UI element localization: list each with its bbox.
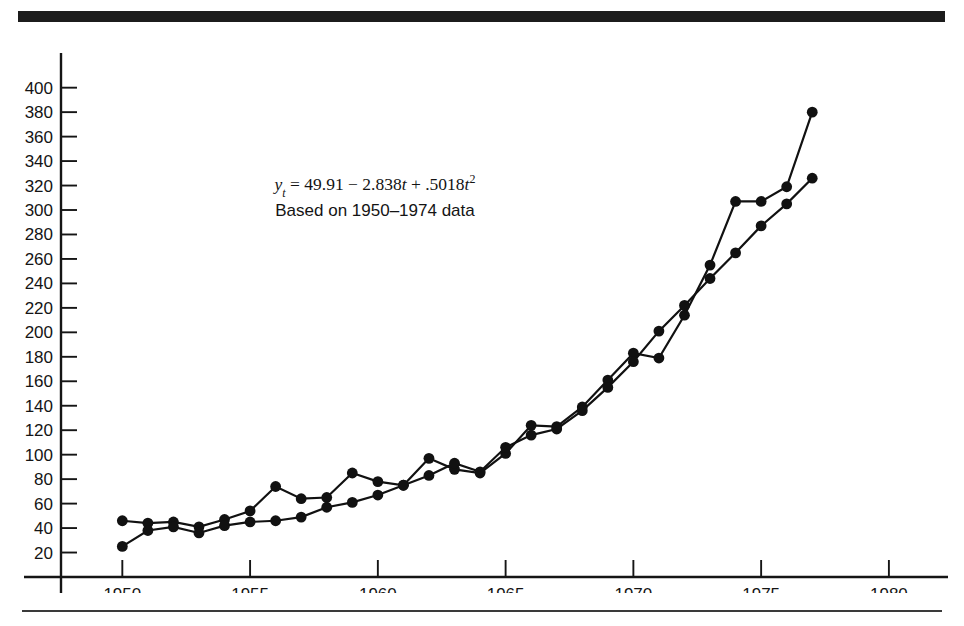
y-tick-label: 120 bbox=[25, 421, 53, 440]
y-tick-label: 380 bbox=[25, 103, 53, 122]
y-tick-label: 280 bbox=[25, 225, 53, 244]
x-axis: 1950195519601965197019751980 bbox=[24, 560, 948, 593]
data-point bbox=[347, 497, 358, 508]
line-chart: 2040608010012014016018020022024026028030… bbox=[0, 28, 964, 593]
data-point bbox=[219, 520, 230, 531]
figure-root: 2040608010012014016018020022024026028030… bbox=[0, 0, 964, 626]
y-tick-label: 300 bbox=[25, 201, 53, 220]
data-point bbox=[372, 476, 383, 487]
y-tick-label: 160 bbox=[25, 372, 53, 391]
y-tick-label: 240 bbox=[25, 274, 53, 293]
data-point bbox=[194, 528, 205, 539]
y-tick-label: 180 bbox=[25, 348, 53, 367]
data-point bbox=[245, 517, 256, 528]
y-tick-label: 80 bbox=[34, 470, 53, 489]
y-tick-label: 320 bbox=[25, 177, 53, 196]
regression-equation-text: yt = 49.91 − 2.838t + .5018t2 bbox=[273, 172, 476, 200]
data-point bbox=[705, 260, 716, 271]
data-point bbox=[424, 453, 435, 464]
data-point bbox=[679, 300, 690, 311]
y-tick-label: 140 bbox=[25, 397, 53, 416]
y-tick-label: 340 bbox=[25, 152, 53, 171]
data-point bbox=[449, 458, 460, 469]
data-point bbox=[756, 221, 767, 232]
data-point bbox=[654, 353, 665, 364]
data-point bbox=[654, 326, 665, 337]
series-line-fitted bbox=[122, 178, 812, 546]
y-tick-label: 40 bbox=[34, 519, 53, 538]
data-point bbox=[321, 502, 332, 513]
data-point bbox=[347, 468, 358, 479]
x-tick-label: 1955 bbox=[231, 585, 269, 593]
data-point bbox=[321, 492, 332, 503]
data-point bbox=[679, 310, 690, 321]
data-point bbox=[705, 273, 716, 284]
data-point bbox=[577, 405, 588, 416]
data-point bbox=[270, 515, 281, 526]
data-point bbox=[602, 382, 613, 393]
data-point bbox=[296, 512, 307, 523]
data-point bbox=[424, 470, 435, 481]
y-tick-label: 20 bbox=[34, 544, 53, 563]
data-point bbox=[372, 490, 383, 501]
top-divider-rule bbox=[18, 11, 945, 22]
x-tick-label: 1980 bbox=[870, 585, 908, 593]
y-tick-label: 100 bbox=[25, 446, 53, 465]
bottom-divider-rule bbox=[22, 610, 942, 612]
data-point bbox=[398, 480, 409, 491]
y-tick-label: 400 bbox=[25, 79, 53, 98]
data-point bbox=[296, 493, 307, 504]
data-point bbox=[730, 247, 741, 258]
x-tick-label: 1960 bbox=[359, 585, 397, 593]
data-point bbox=[781, 198, 792, 209]
annotation-subtitle: Based on 1950–1974 data bbox=[275, 201, 475, 220]
y-tick-label: 360 bbox=[25, 128, 53, 147]
equation-annotation: yt = 49.91 − 2.838t + .5018t2Based on 19… bbox=[273, 172, 476, 220]
data-point bbox=[807, 107, 818, 118]
data-point bbox=[526, 420, 537, 431]
data-point bbox=[117, 541, 128, 552]
x-tick-label: 1975 bbox=[742, 585, 780, 593]
y-axis: 2040608010012014016018020022024026028030… bbox=[25, 53, 77, 593]
y-tick-label: 220 bbox=[25, 299, 53, 318]
data-point bbox=[807, 173, 818, 184]
y-tick-label: 200 bbox=[25, 323, 53, 342]
data-point bbox=[117, 515, 128, 526]
data-point bbox=[142, 525, 153, 536]
x-tick-label: 1970 bbox=[614, 585, 652, 593]
data-point bbox=[781, 181, 792, 192]
data-point bbox=[168, 521, 179, 532]
data-point bbox=[526, 430, 537, 441]
data-point bbox=[245, 506, 256, 517]
chart-plot-area: 2040608010012014016018020022024026028030… bbox=[0, 28, 964, 593]
data-point bbox=[475, 466, 486, 477]
data-point bbox=[756, 196, 767, 207]
data-point bbox=[551, 424, 562, 435]
data-point bbox=[500, 442, 511, 453]
x-tick-label: 1950 bbox=[103, 585, 141, 593]
data-point bbox=[628, 356, 639, 367]
y-tick-label: 60 bbox=[34, 495, 53, 514]
x-tick-label: 1965 bbox=[487, 585, 525, 593]
y-tick-label: 260 bbox=[25, 250, 53, 269]
data-point bbox=[730, 196, 741, 207]
data-point bbox=[270, 481, 281, 492]
